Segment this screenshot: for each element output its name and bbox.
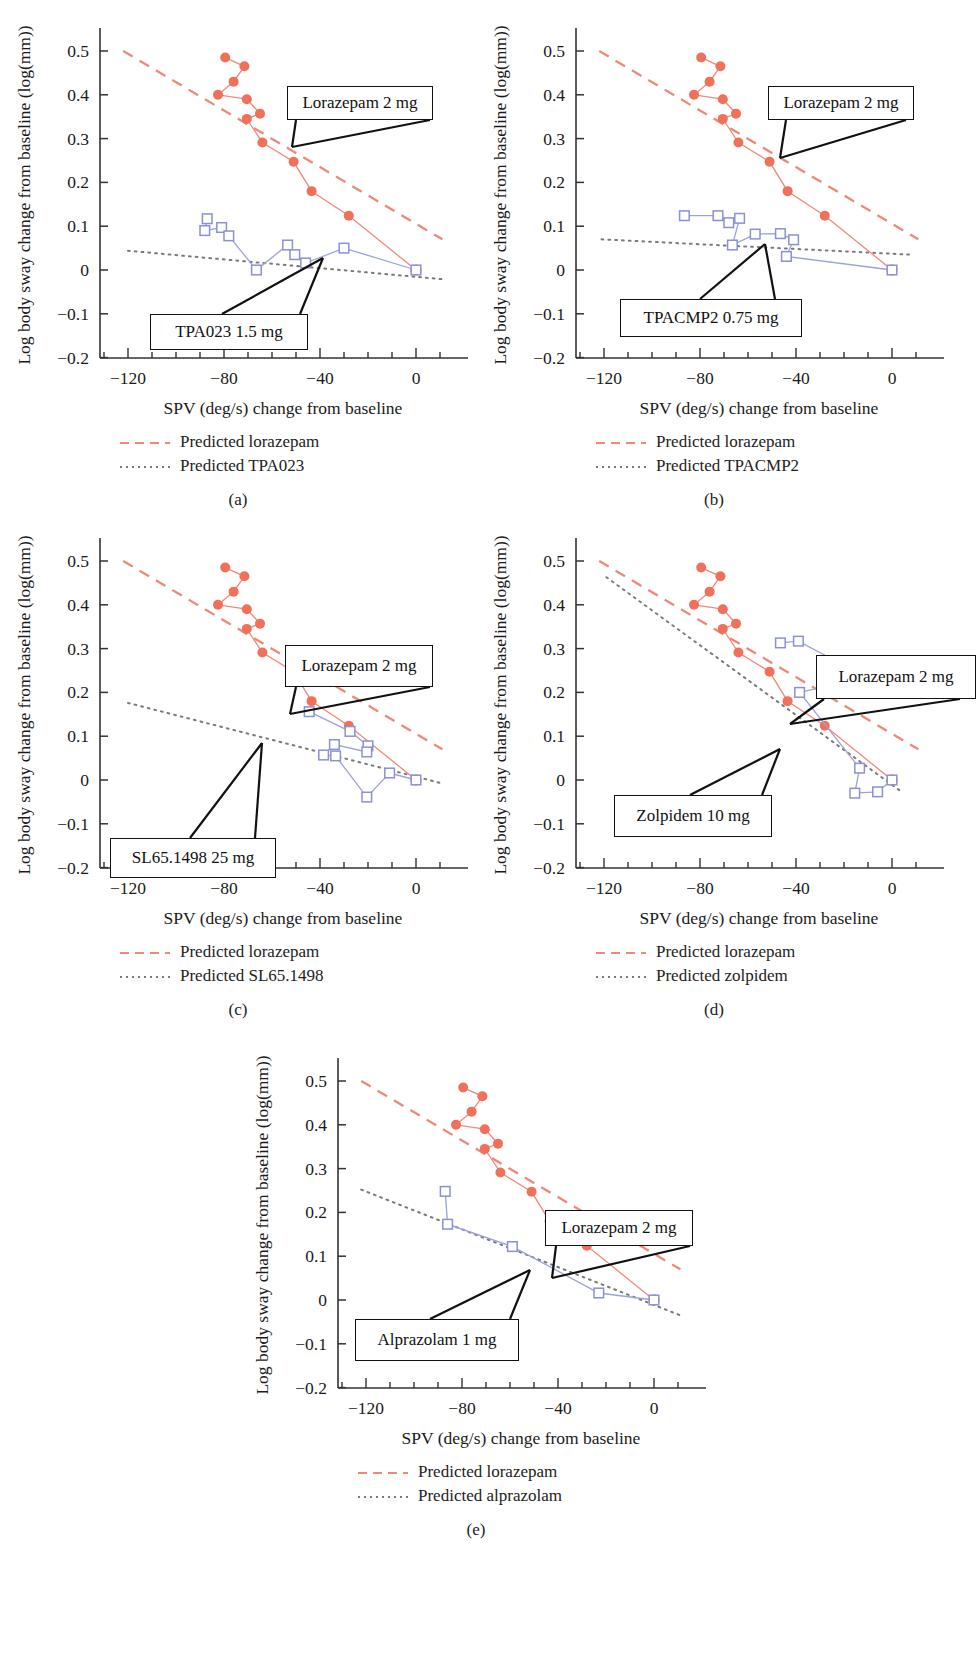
legend-row: Predicted lorazepam	[118, 430, 319, 454]
y-tick-label: 0.4	[67, 85, 89, 105]
legend-b: Predicted lorazepam Predicted TPACMP2	[594, 430, 799, 478]
dotted-line-key	[356, 1489, 410, 1503]
leader-line	[430, 1270, 530, 1319]
annotation-box-lorazepam: Lorazepam 2 mg	[285, 645, 433, 687]
legend-row: Predicted lorazepam	[594, 940, 795, 964]
lorazepam-data-point	[783, 186, 793, 196]
comparator-data-point	[224, 231, 234, 241]
comparator-data-point	[339, 243, 349, 253]
x-axis-title: SPV (deg/s) change from baseline	[164, 398, 403, 418]
lorazepam-data-point	[239, 571, 249, 581]
legend-a: Predicted lorazepam Predicted TPA023	[118, 430, 319, 478]
lorazepam-data-point	[527, 1187, 537, 1197]
legend-e: Predicted lorazepam Predicted alprazolam	[356, 1460, 562, 1508]
x-axis-title: SPV (deg/s) change from baseline	[640, 908, 879, 928]
legend-row: Predicted TPACMP2	[594, 454, 799, 478]
legend-row: Predicted SL65.1498	[118, 964, 324, 988]
annotation-box-comparator: TPACMP2 0.75 mg	[620, 299, 802, 337]
y-tick-label: −0.2	[533, 858, 565, 878]
lorazepam-data-point	[242, 604, 252, 614]
annotation-box-comparator: SL65.1498 25 mg	[110, 838, 276, 878]
legend-label: Predicted TPA023	[180, 456, 304, 476]
comparator-data-point	[362, 792, 372, 802]
leader-line	[552, 1246, 690, 1278]
dotted-line-key	[118, 969, 172, 983]
y-tick-label: 0.4	[305, 1115, 327, 1135]
comparator-data-point	[887, 775, 897, 785]
lorazepam-data-point	[696, 563, 706, 573]
comparator-data-point	[855, 763, 865, 773]
x-axis-title: SPV (deg/s) change from baseline	[640, 398, 879, 418]
annotation-leader-lines	[548, 1242, 694, 1282]
x-tick-label: −120	[586, 368, 622, 388]
x-tick-label: −120	[348, 1398, 384, 1418]
lorazepam-data-point	[718, 114, 728, 124]
comparator-data-point	[345, 727, 355, 737]
annotation-box-comparator: TPA023 1.5 mg	[150, 314, 308, 350]
lorazepam-data-point	[289, 157, 299, 167]
leader-line	[222, 258, 323, 314]
annotation-box-comparator: Alprazolam 1 mg	[355, 1319, 519, 1361]
comparator-data-point	[776, 229, 786, 239]
leader-line	[292, 120, 430, 147]
x-tick-label: −120	[110, 368, 146, 388]
annotation-label: Zolpidem 10 mg	[636, 806, 749, 826]
comparator-data-point	[443, 1219, 453, 1229]
y-tick-label: 0	[318, 1290, 327, 1310]
annotation-box-lorazepam: Lorazepam 2 mg	[816, 655, 976, 699]
lorazepam-data-point	[255, 619, 265, 629]
lorazepam-data-point	[257, 648, 267, 658]
leader-line	[700, 244, 765, 299]
annotation-label: Alprazolam 1 mg	[378, 1330, 497, 1350]
y-tick-label: −0.1	[57, 814, 89, 834]
comparator-data-point	[411, 265, 421, 275]
comparator-data-point	[887, 265, 897, 275]
comparator-data-point	[724, 218, 734, 228]
lorazepam-data-point	[495, 1168, 505, 1178]
lorazepam-data-point	[220, 53, 230, 63]
x-tick-label: −120	[586, 878, 622, 898]
dotted-line-key	[118, 459, 172, 473]
annotation-label: Lorazepam 2 mg	[783, 93, 898, 113]
y-tick-label: −0.1	[533, 304, 565, 324]
y-tick-label: −0.1	[533, 814, 565, 834]
y-tick-label: 0.3	[67, 639, 89, 659]
lorazepam-data-point	[242, 114, 252, 124]
y-axis-title: Log body sway change from baseline (log(…	[490, 25, 510, 364]
lorazepam-data-point	[242, 624, 252, 634]
y-axis-title: Log body sway change from baseline (log(…	[14, 535, 34, 874]
lorazepam-data-point	[229, 587, 239, 597]
legend-label: Predicted alprazolam	[418, 1486, 562, 1506]
annotation-label: TPA023 1.5 mg	[175, 322, 283, 342]
y-tick-label: 0.5	[543, 41, 565, 61]
y-tick-label: 0.4	[543, 595, 565, 615]
lorazepam-data-point	[257, 138, 267, 148]
y-tick-label: −0.2	[295, 1378, 327, 1398]
lorazepam-data-point	[718, 604, 728, 614]
y-tick-label: 0.3	[543, 639, 565, 659]
lorazepam-data-point	[696, 53, 706, 63]
comparator-data-point	[850, 788, 860, 798]
y-tick-label: 0.5	[67, 41, 89, 61]
subfigure-caption-e: (e)	[238, 1520, 714, 1540]
comparator-data-point	[782, 252, 792, 262]
y-tick-label: 0.2	[67, 682, 89, 702]
y-tick-label: −0.1	[295, 1334, 327, 1354]
dashed-line-key	[594, 435, 648, 449]
leader-line	[290, 687, 430, 714]
dashed-line-key	[594, 945, 648, 959]
annotation-label: Lorazepam 2 mg	[838, 667, 953, 687]
comparator-data-point	[330, 740, 340, 750]
y-tick-label: 0.5	[543, 551, 565, 571]
annotation-leader-lines	[218, 254, 327, 318]
leader-line	[292, 120, 296, 147]
leader-line	[300, 258, 323, 314]
y-tick-label: −0.2	[57, 348, 89, 368]
y-tick-label: 0.5	[305, 1071, 327, 1091]
y-tick-label: 0.1	[543, 216, 565, 236]
y-tick-label: −0.2	[57, 858, 89, 878]
x-tick-label: −40	[782, 368, 810, 388]
lorazepam-data-point	[220, 563, 230, 573]
lorazepam-data-point	[255, 109, 265, 119]
annotation-box-comparator: Zolpidem 10 mg	[614, 795, 772, 837]
